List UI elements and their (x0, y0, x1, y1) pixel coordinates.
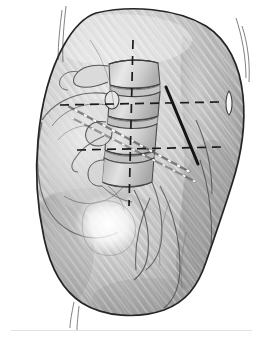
sacrum-highlight (74, 194, 142, 254)
anatomical-illustration (0, 0, 263, 340)
skin-landmark-marking (226, 91, 232, 115)
body-silhouette (0, 0, 263, 340)
vertebra-body-upper (109, 60, 160, 89)
figure-root: Oblique anatomical illustration of the l… (0, 0, 263, 340)
caption-divider-rule (11, 330, 252, 331)
